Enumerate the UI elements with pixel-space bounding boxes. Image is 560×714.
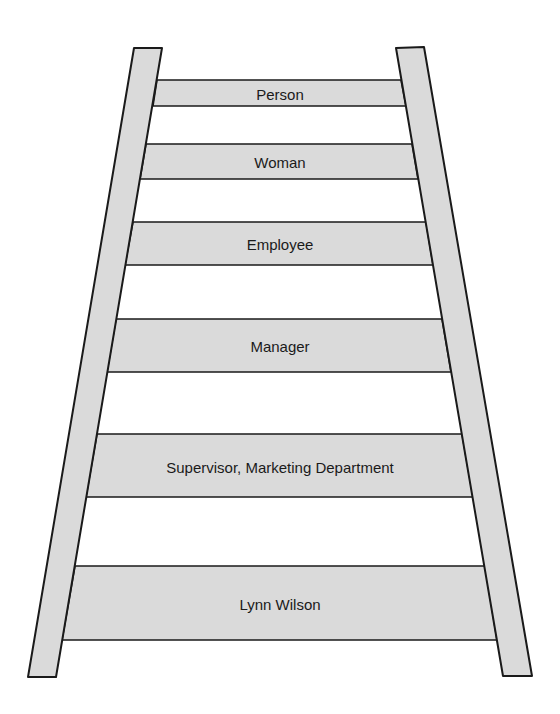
rung-label: Manager	[250, 338, 309, 355]
rung-label: Lynn Wilson	[239, 596, 320, 613]
abstraction-ladder: Person Woman Employee Manager Supervisor…	[0, 0, 560, 714]
rung-label: Woman	[254, 154, 305, 171]
rung-label: Supervisor, Marketing Department	[166, 459, 394, 476]
rung-employee: Employee	[125, 222, 433, 265]
rung-label: Employee	[247, 236, 314, 253]
rung-person: Person	[153, 80, 406, 106]
rung-supervisor: Supervisor, Marketing Department	[86, 434, 473, 497]
rung-lynn-wilson: Lynn Wilson	[62, 566, 497, 640]
rung-label: Person	[256, 86, 304, 103]
rung-woman: Woman	[140, 144, 418, 179]
rung-manager: Manager	[107, 319, 451, 372]
